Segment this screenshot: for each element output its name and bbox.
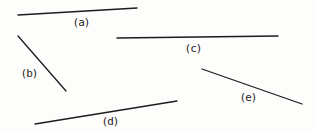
segment-line-b: [18, 36, 66, 91]
segments-svg: [0, 0, 314, 131]
segment-line-c: [117, 36, 278, 38]
segment-label-d: (d): [102, 116, 119, 127]
segment-label-a: (a): [73, 17, 90, 28]
diagram-canvas: (a)(b)(c)(d)(e): [0, 0, 314, 131]
segment-line-a: [18, 8, 137, 15]
segment-label-c: (c): [185, 43, 202, 54]
segment-label-b: (b): [21, 68, 38, 79]
segment-label-e: (e): [240, 92, 257, 103]
